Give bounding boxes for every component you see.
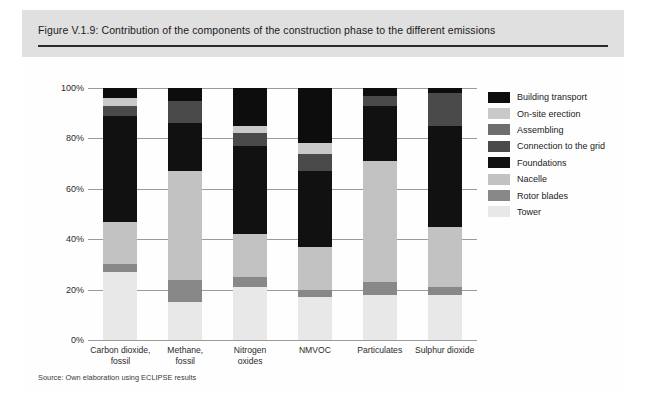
bar-segment[interactable]	[298, 297, 332, 340]
chart-body: 0%20%40%60%80%100% Carbon dioxide, fossi…	[22, 57, 624, 392]
bar-segment[interactable]	[428, 227, 462, 287]
bar-segment[interactable]	[298, 290, 332, 298]
y-axis-tick-label: 40%	[66, 234, 84, 244]
bar-stack[interactable]	[168, 88, 202, 340]
gridline	[88, 88, 477, 89]
legend-swatch	[488, 174, 510, 185]
legend-item[interactable]: Building transport	[488, 89, 618, 105]
legend-swatch	[488, 190, 510, 201]
bar-segment[interactable]	[233, 146, 267, 234]
legend-swatch	[488, 108, 510, 119]
figure-page: Figure V.1.9: Contribution of the compon…	[0, 0, 646, 414]
bar-segment[interactable]	[298, 247, 332, 290]
x-axis-tick-label: Sulphur dioxide	[408, 345, 482, 356]
title-divider	[38, 45, 608, 47]
bar-segment[interactable]	[233, 88, 267, 126]
legend-label: Building transport	[517, 92, 587, 102]
legend-label: Tower	[517, 207, 541, 217]
bar-segment[interactable]	[233, 287, 267, 340]
legend-item[interactable]: Tower	[488, 204, 618, 220]
bar-stack[interactable]	[428, 88, 462, 340]
figure-title-band: Figure V.1.9: Contribution of the compon…	[22, 10, 624, 57]
bar-segment[interactable]	[363, 161, 397, 282]
bar-segment[interactable]	[168, 123, 202, 171]
bar-segment[interactable]	[363, 106, 397, 161]
bar-segment[interactable]	[428, 295, 462, 340]
bar-segment[interactable]	[103, 88, 137, 98]
bar-segment[interactable]	[428, 126, 462, 227]
gridline	[88, 189, 477, 190]
x-axis-tick-label: Methane, fossil	[148, 345, 222, 367]
bar-segment[interactable]	[363, 88, 397, 96]
legend-label: Rotor blades	[517, 191, 568, 201]
bar-segment[interactable]	[168, 101, 202, 124]
bar-segment[interactable]	[168, 302, 202, 340]
legend-label: On-site erection	[517, 109, 581, 119]
bar-stack[interactable]	[298, 88, 332, 340]
bar-segment[interactable]	[298, 154, 332, 172]
bar-segment[interactable]	[168, 280, 202, 303]
legend-item[interactable]: Foundations	[488, 155, 618, 171]
legend-swatch	[488, 206, 510, 217]
bar-segment[interactable]	[103, 222, 137, 265]
gridline	[88, 239, 477, 240]
y-axis-tick-label: 80%	[66, 133, 84, 143]
x-axis-tick-label: NMVOC	[278, 345, 352, 356]
legend-swatch	[488, 141, 510, 152]
legend-label: Connection to the grid	[517, 141, 605, 151]
gridline	[88, 138, 477, 139]
x-axis-tick-label: Nitrogen oxides	[213, 345, 287, 367]
bar-segment[interactable]	[298, 143, 332, 153]
bar-stack[interactable]	[233, 88, 267, 340]
bar-stack[interactable]	[103, 88, 137, 340]
bar-segment[interactable]	[103, 98, 137, 106]
bar-stack[interactable]	[363, 88, 397, 340]
figure-title: Figure V.1.9: Contribution of the compon…	[38, 24, 495, 36]
bar-segment[interactable]	[168, 171, 202, 279]
legend-label: Nacelle	[517, 174, 547, 184]
y-axis-tick-label: 0%	[71, 335, 84, 345]
bar-segment[interactable]	[168, 88, 202, 101]
bar-segment[interactable]	[103, 264, 137, 272]
bar-segment[interactable]	[363, 96, 397, 106]
bar-segment[interactable]	[363, 282, 397, 295]
legend-swatch	[488, 124, 510, 135]
legend-label: Assembling	[517, 125, 564, 135]
bar-segment[interactable]	[298, 88, 332, 143]
gridline	[88, 340, 477, 341]
bar-segment[interactable]	[103, 106, 137, 116]
bar-segment[interactable]	[233, 234, 267, 277]
legend-swatch	[488, 157, 510, 168]
legend-item[interactable]: Assembling	[488, 122, 618, 138]
legend-item[interactable]: Connection to the grid	[488, 138, 618, 154]
source-note: Source: Own elaboration using ECLIPSE re…	[38, 373, 196, 382]
bar-segment[interactable]	[233, 277, 267, 287]
bar-segment[interactable]	[428, 93, 462, 126]
legend-item[interactable]: Nacelle	[488, 171, 618, 187]
y-axis-tick-label: 60%	[66, 184, 84, 194]
chart-legend: Building transportOn-site erectionAssemb…	[488, 89, 618, 220]
bar-segment[interactable]	[233, 126, 267, 134]
x-axis-tick-label: Carbon dioxide, fossil	[83, 345, 157, 367]
bar-segment[interactable]	[298, 171, 332, 247]
figure-panel: Figure V.1.9: Contribution of the compon…	[22, 10, 624, 392]
y-axis-labels: 0%20%40%60%80%100%	[36, 88, 84, 340]
legend-label: Foundations	[517, 158, 567, 168]
y-axis-tick-label: 20%	[66, 285, 84, 295]
legend-item[interactable]: On-site erection	[488, 105, 618, 121]
y-axis-tick-label: 100%	[61, 83, 84, 93]
bar-segment[interactable]	[363, 295, 397, 340]
bar-segment[interactable]	[103, 116, 137, 222]
x-axis-tick-label: Particulates	[343, 345, 417, 356]
bar-segment[interactable]	[428, 287, 462, 295]
legend-swatch	[488, 92, 510, 103]
bar-segment[interactable]	[233, 133, 267, 146]
bar-segment[interactable]	[103, 272, 137, 340]
legend-item[interactable]: Rotor blades	[488, 187, 618, 203]
plot-area: Carbon dioxide, fossilMethane, fossilNit…	[88, 88, 477, 340]
bar-segment[interactable]	[428, 88, 462, 93]
gridline	[88, 290, 477, 291]
